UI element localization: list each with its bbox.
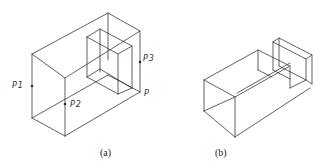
label-p3: P3: [143, 55, 155, 63]
inner-slot-a: [87, 29, 132, 94]
caption-b: (b): [215, 148, 227, 158]
point-p2-marker: [64, 103, 67, 106]
point-p1-marker: [31, 85, 34, 88]
label-p: P: [144, 90, 150, 98]
diagram-canvas: P1 P2 P3 P (a) (b): [0, 0, 325, 168]
tall-block-b: [273, 38, 312, 88]
label-p1: P1: [12, 82, 24, 90]
point-p3-marker: [139, 61, 142, 64]
label-p2: P2: [70, 101, 82, 109]
long-box-b: [204, 50, 310, 137]
reference-points-a: [31, 61, 142, 106]
figure-a-wireframe: [0, 0, 325, 168]
caption-a: (a): [100, 148, 111, 158]
outer-box-a: [32, 13, 140, 136]
